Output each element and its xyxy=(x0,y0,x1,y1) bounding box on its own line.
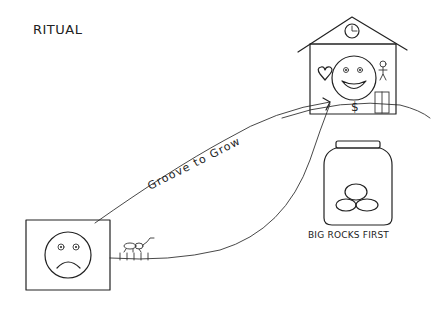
ritual-diagram: Groove to Grow xyxy=(0,0,439,309)
lower-path xyxy=(110,104,330,259)
jar-icon xyxy=(324,141,392,225)
dollar-icon: $ xyxy=(351,100,359,114)
door-icon xyxy=(375,92,389,113)
smiling-face-icon xyxy=(332,56,376,100)
groove-path xyxy=(95,102,330,223)
stick-figure-icon xyxy=(379,61,387,80)
sad-face-icon xyxy=(45,232,91,278)
arrowhead-icon xyxy=(323,98,330,110)
heart-icon xyxy=(318,67,332,80)
sad-face-box xyxy=(26,220,110,290)
path-label: Groove to Grow xyxy=(145,134,243,192)
ant-icon xyxy=(124,238,154,252)
jar-caption: BIG ROCKS FIRST xyxy=(308,230,389,240)
rock-icons xyxy=(336,184,378,211)
clock-icon xyxy=(345,24,359,38)
house-icon: $ xyxy=(298,17,407,114)
